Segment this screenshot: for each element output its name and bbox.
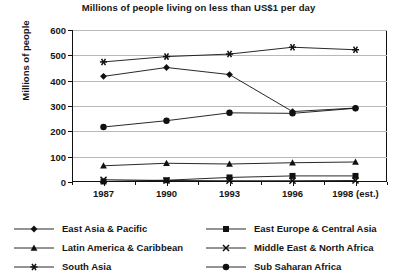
legend-item[interactable]: South Asia xyxy=(12,257,202,276)
circle-marker xyxy=(100,124,106,130)
circle-marker xyxy=(163,117,169,123)
legend-item-label: South Asia xyxy=(56,261,111,272)
series-latin-america-caribbean xyxy=(100,158,359,168)
diamond-icon xyxy=(12,222,56,236)
chart-title: Millions of people living on less than U… xyxy=(0,2,397,13)
legend-column-right: East Europe & Central AsiaMiddle East & … xyxy=(204,219,394,276)
legend-item[interactable]: Middle East & North Africa xyxy=(204,238,394,257)
square-icon xyxy=(204,222,248,236)
y-axis-tick-label: 600 xyxy=(50,25,66,36)
x-icon xyxy=(204,241,248,255)
asterisk-marker xyxy=(289,44,296,50)
circle-icon xyxy=(204,260,248,274)
series-east-asia-pacific xyxy=(100,64,359,115)
y-axis-tick-label: 200 xyxy=(50,126,66,137)
triangle-marker xyxy=(352,158,359,164)
asterisk-marker xyxy=(226,51,233,57)
x-axis-tick-label: 1990 xyxy=(156,188,177,199)
x-axis-minor-tick xyxy=(198,182,199,186)
circle-marker xyxy=(223,263,229,269)
x-axis-tick-label: 1998 (est.) xyxy=(332,188,378,199)
legend-item[interactable]: Sub Saharan Africa xyxy=(204,257,394,276)
square-marker xyxy=(223,226,229,232)
triangle-marker xyxy=(163,160,170,166)
circle-marker xyxy=(226,110,232,116)
legend-item-label: East Europe & Central Asia xyxy=(248,223,377,234)
x-axis-minor-tick xyxy=(72,182,73,186)
x-axis-tick-label: 1996 xyxy=(282,188,303,199)
y-axis-tick-label: 500 xyxy=(50,50,66,61)
asterisk-icon xyxy=(12,260,56,274)
x-axis-minor-tick xyxy=(261,182,262,186)
circle-marker xyxy=(289,110,295,116)
x-axis-minor-tick xyxy=(324,182,325,186)
y-axis-label: Millions of people xyxy=(20,0,31,141)
asterisk-marker xyxy=(163,53,170,59)
triangle-icon xyxy=(12,241,56,255)
series-layer xyxy=(72,30,387,182)
legend-item-label: East Asia & Pacific xyxy=(56,223,147,234)
legend-item[interactable]: Latin America & Caribbean xyxy=(12,238,202,257)
y-axis-tick-label: 0 xyxy=(61,177,66,188)
y-axis-tick-label: 400 xyxy=(50,75,66,86)
asterisk-marker xyxy=(30,263,37,269)
chart-container: Millions of people living on less than U… xyxy=(0,0,397,278)
diamond-marker xyxy=(31,225,38,232)
y-axis-tick-label: 100 xyxy=(50,151,66,162)
y-axis-tick-label: 300 xyxy=(50,101,66,112)
legend-column-left: East Asia & PacificLatin America & Carib… xyxy=(12,219,202,276)
series-sub-saharan-africa xyxy=(100,105,358,130)
x-axis-tick-label: 1987 xyxy=(93,188,114,199)
legend-item[interactable]: East Asia & Pacific xyxy=(12,219,202,238)
diamond-marker xyxy=(163,64,170,71)
diamond-marker xyxy=(100,73,107,80)
asterisk-marker xyxy=(352,47,359,53)
series-south-asia xyxy=(100,44,359,65)
x-axis-minor-tick xyxy=(387,182,388,186)
asterisk-marker xyxy=(100,59,107,65)
diamond-marker xyxy=(226,71,233,78)
legend-item-label: Latin America & Caribbean xyxy=(56,242,183,253)
x-axis-minor-tick xyxy=(135,182,136,186)
legend-item-label: Sub Saharan Africa xyxy=(248,261,341,272)
circle-marker xyxy=(352,105,358,111)
chart-legend: East Asia & PacificLatin America & Carib… xyxy=(12,219,397,277)
legend-item[interactable]: East Europe & Central Asia xyxy=(204,219,394,238)
plot-area: 0100200300400500600 19871990199319961998… xyxy=(72,30,387,182)
legend-item-label: Middle East & North Africa xyxy=(248,242,373,253)
x-axis-tick-label: 1993 xyxy=(219,188,240,199)
